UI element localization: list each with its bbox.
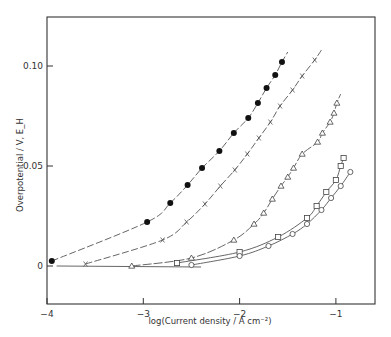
x-axis-title: log(Current density / A cm⁻²) xyxy=(148,316,271,326)
fit-curve xyxy=(191,172,350,265)
square-marker xyxy=(314,203,319,208)
triangle-marker xyxy=(291,165,297,170)
filled-circle-marker xyxy=(167,200,173,206)
triangle-marker xyxy=(319,130,325,135)
fit-curve xyxy=(86,50,322,264)
filled-circle-marker xyxy=(185,182,191,188)
square-marker xyxy=(333,177,338,182)
triangle-marker xyxy=(315,139,321,144)
x-tick-label: −1 xyxy=(329,309,342,319)
y-tick-label: 0.10 xyxy=(23,61,43,71)
circle-marker xyxy=(237,253,242,258)
fit-curve xyxy=(52,52,288,261)
square-marker xyxy=(276,234,281,239)
cross-marker xyxy=(291,88,295,93)
baseline-curve xyxy=(57,266,201,267)
cross-marker xyxy=(218,184,222,189)
square-marker xyxy=(324,189,329,194)
circle-marker xyxy=(319,207,324,212)
filled-circle-marker xyxy=(279,59,285,65)
circle-marker xyxy=(328,195,333,200)
filled-circle-marker xyxy=(144,219,150,225)
overpotential-chart: −4−3−2−100.050.10 log(Current density / … xyxy=(0,0,391,337)
cross-marker xyxy=(185,220,189,225)
circle-marker xyxy=(338,183,343,188)
circle-marker xyxy=(266,243,271,248)
triangle-marker xyxy=(231,237,237,242)
filled-circle-marker xyxy=(272,72,278,78)
filled-circle-marker xyxy=(255,100,261,106)
cross-marker xyxy=(257,136,261,141)
filled-circle-marker xyxy=(245,115,251,121)
cross-marker xyxy=(203,202,207,207)
square-marker xyxy=(304,215,309,220)
cross-marker xyxy=(300,74,304,79)
y-tick-label: 0.05 xyxy=(23,161,43,171)
filled-circle-marker xyxy=(231,130,237,136)
x-tick-label: −4 xyxy=(40,309,54,319)
circle-marker xyxy=(304,221,309,226)
circle-marker xyxy=(189,262,194,267)
cross-marker xyxy=(161,238,165,243)
axis-ticks: −4−3−2−100.050.10 xyxy=(23,61,343,319)
cross-marker xyxy=(268,120,272,125)
y-axis-title: Overpotential / V, E_H xyxy=(15,118,25,212)
cross-marker xyxy=(313,58,317,63)
cross-marker xyxy=(233,168,237,173)
triangle-marker xyxy=(285,174,291,179)
data-markers xyxy=(49,58,353,269)
cross-marker xyxy=(278,104,282,109)
triangle-marker xyxy=(327,119,333,124)
fit-curves xyxy=(52,50,351,267)
filled-circle-marker xyxy=(199,165,205,171)
filled-circle-marker xyxy=(49,258,55,264)
triangle-marker xyxy=(334,100,340,105)
square-marker xyxy=(338,163,343,168)
circle-marker xyxy=(290,231,295,236)
filled-circle-marker xyxy=(264,85,270,91)
triangle-marker xyxy=(261,210,267,215)
square-marker xyxy=(174,260,179,265)
circle-marker xyxy=(348,169,353,174)
square-marker xyxy=(341,155,346,160)
y-tick-label: 0 xyxy=(37,261,43,271)
triangle-marker xyxy=(269,196,275,201)
filled-circle-marker xyxy=(216,148,222,154)
triangle-marker xyxy=(331,110,337,115)
cross-marker xyxy=(245,152,249,157)
